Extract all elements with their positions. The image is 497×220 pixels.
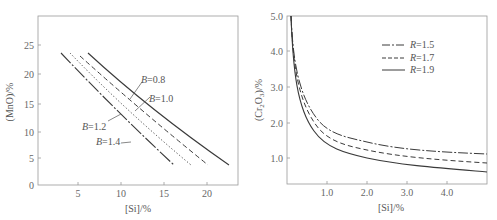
right-x-axis-label: [Si]/% — [378, 202, 404, 213]
left-x-axis-label: [Si]/% — [125, 203, 151, 214]
right-plot-frame — [287, 16, 487, 184]
right-xtick: 4.0 — [441, 187, 454, 198]
legend-label-r-1-5: R=1.5 — [409, 39, 434, 50]
left-ytick: 10 — [24, 127, 34, 138]
right-chart: 1.0 2.0 3.0 4.0 5.0 1.0 2.0 3.0 4.0 [Si]… — [253, 11, 487, 213]
curve-b-1-2 — [70, 53, 191, 165]
curve-r-1-7 — [291, 16, 487, 163]
label-b-0-8: B=0.8 — [141, 74, 165, 85]
right-ytick: 3.0 — [271, 82, 284, 93]
left-xtick: 5 — [76, 188, 81, 199]
right-ytick: 5.0 — [271, 11, 284, 22]
right-x-axis — [327, 181, 447, 184]
right-xtick: 2.0 — [361, 187, 374, 198]
left-plot-frame — [38, 16, 238, 185]
label-b-1-0: B=1.0 — [149, 93, 173, 104]
left-y-axis — [38, 45, 41, 158]
left-ytick: 15 — [24, 99, 34, 110]
legend-label-r-1-9: R=1.9 — [409, 64, 434, 75]
right-ytick: 4.0 — [271, 46, 284, 57]
annotation-leaders — [108, 82, 150, 143]
right-xtick: 1.0 — [321, 187, 334, 198]
left-chart: 0 5 10 15 20 25 5 10 15 20 [Si]/% (MnO)/… — [4, 16, 238, 214]
left-xtick: 15 — [159, 188, 169, 199]
curve-r-1-9 — [291, 16, 487, 172]
curve-r-1-5 — [291, 16, 487, 154]
left-ytick: 0 — [29, 180, 34, 191]
legend: R=1.5 R=1.7 R=1.9 — [382, 39, 434, 75]
right-y-axis-label: (Cr2O3)/% — [253, 79, 266, 121]
curve-b-0-8 — [88, 53, 229, 165]
right-ytick: 1.0 — [271, 153, 284, 164]
legend-label-r-1-7: R=1.7 — [409, 52, 434, 63]
right-xtick: 3.0 — [401, 187, 414, 198]
left-xtick: 20 — [202, 188, 212, 199]
curve-b-1-0 — [80, 56, 208, 165]
figure: 0 5 10 15 20 25 5 10 15 20 [Si]/% (MnO)/… — [0, 0, 497, 220]
label-b-1-2: B=1.2 — [82, 121, 106, 132]
left-y-axis-label: (MnO)/% — [4, 83, 16, 122]
right-ytick: 2.0 — [271, 118, 284, 129]
label-b-1-4: B=1.4 — [96, 136, 120, 147]
right-y-axis — [287, 51, 290, 158]
left-ytick: 5 — [29, 153, 34, 164]
curve-b-1-4 — [61, 53, 174, 165]
left-xtick: 10 — [116, 188, 126, 199]
left-x-axis — [78, 182, 207, 185]
left-ytick: 20 — [24, 69, 34, 80]
left-ytick: 25 — [24, 40, 34, 51]
